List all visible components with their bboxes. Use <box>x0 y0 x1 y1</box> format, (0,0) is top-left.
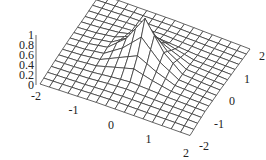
surface-plot: 00.20.40.60.81 -2-1012 -2-1012 <box>0 0 266 160</box>
y-tick-label: 1 <box>244 72 250 86</box>
y-tick-label: 0 <box>229 94 235 108</box>
x-tick-label: -2 <box>31 89 41 103</box>
x-tick-label: 2 <box>183 146 189 160</box>
z-axis: 00.20.40.60.81 <box>19 28 36 92</box>
y-tick-label: -2 <box>199 139 209 153</box>
x-tick-label: 0 <box>108 118 114 132</box>
y-tick-label: -1 <box>214 117 224 131</box>
y-tick-label: 2 <box>259 49 265 63</box>
z-tick-label: 1 <box>28 28 34 42</box>
x-tick-label: -1 <box>69 103 79 117</box>
x-tick-label: 1 <box>146 132 152 146</box>
